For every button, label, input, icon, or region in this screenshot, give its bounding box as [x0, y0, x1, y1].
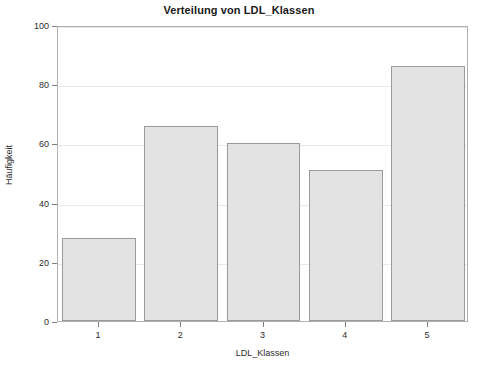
- x-axis: 12345: [0, 0, 478, 373]
- x-axis-tick-label: 4: [325, 330, 365, 340]
- x-axis-tick-label: 3: [243, 330, 283, 340]
- x-axis-tick-mark: [98, 322, 99, 327]
- x-axis-tick-mark: [263, 322, 264, 327]
- bar-chart-figure: Verteilung von LDL_Klassen Häufigkeit 02…: [0, 0, 478, 373]
- x-axis-tick-mark: [427, 322, 428, 327]
- x-axis-tick-label: 5: [407, 330, 447, 340]
- x-axis-title: LDL_Klassen: [57, 348, 468, 358]
- x-axis-tick-mark: [180, 322, 181, 327]
- x-axis-tick-label: 1: [78, 330, 118, 340]
- x-axis-tick-label: 2: [160, 330, 200, 340]
- x-axis-tick-mark: [345, 322, 346, 327]
